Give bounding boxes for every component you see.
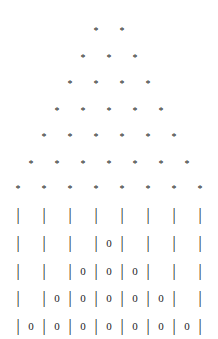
pipe-icon: | xyxy=(120,290,123,306)
pipe-icon: | xyxy=(146,207,149,223)
zero-icon: 0 xyxy=(158,318,164,334)
pipe-cell: | xyxy=(116,263,129,279)
asterisk-cell: * xyxy=(57,75,83,91)
asterisk-icon: * xyxy=(107,50,112,66)
pipe-cell: | xyxy=(142,263,155,279)
zero-cell: 0 xyxy=(129,318,142,335)
pipe-cell: | xyxy=(168,207,181,223)
zero-cell: 0 xyxy=(129,290,142,307)
zero-cell: 0 xyxy=(129,263,142,280)
asterisk-cell: * xyxy=(5,180,31,196)
zero-cell: 0 xyxy=(103,318,116,335)
asterisk-cell: * xyxy=(148,102,174,118)
star-row-2: *** xyxy=(0,49,218,65)
zero-icon: 0 xyxy=(106,318,112,334)
asterisk-icon: * xyxy=(107,156,112,172)
star-row-4: ***** xyxy=(0,102,218,118)
pipe-icon: | xyxy=(42,263,45,279)
pipe-cell: | xyxy=(142,207,155,223)
star-row-7: ******** xyxy=(0,180,218,196)
pipe-icon: | xyxy=(16,290,19,306)
pipe-icon: | xyxy=(172,318,175,334)
pipe-cell: | xyxy=(194,235,207,251)
asterisk-icon: * xyxy=(172,181,177,197)
asterisk-cell: * xyxy=(96,155,122,171)
pipe-icon: | xyxy=(94,235,97,251)
pipe-icon: | xyxy=(120,207,123,223)
pipe-icon: | xyxy=(42,290,45,306)
pipe-icon: | xyxy=(42,207,45,223)
asterisk-cell: * xyxy=(44,155,70,171)
pipe-cell: | xyxy=(90,235,103,251)
asterisk-icon: * xyxy=(172,129,177,145)
pipe-icon: | xyxy=(68,207,71,223)
pipe-icon: | xyxy=(198,207,201,223)
asterisk-icon: * xyxy=(185,156,190,172)
pipe-icon: | xyxy=(42,318,45,334)
pipe-icon: | xyxy=(198,318,201,334)
zero-cell: 0 xyxy=(155,290,168,307)
pipe-icon: | xyxy=(94,207,97,223)
pipe-cell: | xyxy=(142,318,155,334)
bar-row-1: | | | | | | | | xyxy=(0,207,218,223)
asterisk-icon: * xyxy=(159,103,164,119)
pipe-cell: | xyxy=(194,318,207,334)
zero-icon: 0 xyxy=(80,263,86,279)
zero-icon: 0 xyxy=(132,290,138,306)
asterisk-icon: * xyxy=(94,181,99,197)
pipe-cell: | xyxy=(64,235,77,251)
bar-row-4: | |0|0|0|0|0| | xyxy=(0,290,218,306)
pipe-cell: | xyxy=(64,318,77,334)
pipe-icon: | xyxy=(146,235,149,251)
pipe-icon: | xyxy=(16,235,19,251)
asterisk-cell: * xyxy=(96,102,122,118)
asterisk-icon: * xyxy=(68,76,73,92)
asterisk-icon: * xyxy=(107,103,112,119)
pipe-cell: | xyxy=(12,263,25,279)
asterisk-cell: * xyxy=(135,180,161,196)
asterisk-cell: * xyxy=(57,128,83,144)
pipe-icon: | xyxy=(94,290,97,306)
zero-icon: 0 xyxy=(106,290,112,306)
asterisk-cell: * xyxy=(109,75,135,91)
asterisk-icon: * xyxy=(81,103,86,119)
pipe-cell: | xyxy=(38,290,51,306)
pipe-icon: | xyxy=(94,318,97,334)
pipe-icon: | xyxy=(146,263,149,279)
star-row-5: ****** xyxy=(0,128,218,144)
asterisk-cell: * xyxy=(70,155,96,171)
asterisk-cell: * xyxy=(83,22,109,38)
star-row-6: ******* xyxy=(0,155,218,171)
pipe-cell: | xyxy=(168,235,181,251)
asterisk-cell: * xyxy=(148,155,174,171)
asterisk-icon: * xyxy=(120,23,125,39)
zero-icon: 0 xyxy=(132,318,138,334)
zero-icon: 0 xyxy=(54,290,60,306)
asterisk-icon: * xyxy=(94,23,99,39)
asterisk-icon: * xyxy=(81,50,86,66)
zero-icon: 0 xyxy=(80,290,86,306)
asterisk-cell: * xyxy=(161,128,187,144)
asterisk-cell: * xyxy=(83,180,109,196)
pipe-cell: | xyxy=(116,290,129,306)
asterisk-cell: * xyxy=(18,155,44,171)
asterisk-cell: * xyxy=(109,22,135,38)
asterisk-icon: * xyxy=(159,156,164,172)
zero-icon: 0 xyxy=(132,263,138,279)
pipe-cell: | xyxy=(38,263,51,279)
star-row-3: **** xyxy=(0,75,218,91)
pipe-cell: | xyxy=(168,263,181,279)
asterisk-cell: * xyxy=(57,180,83,196)
pipe-cell: | xyxy=(168,318,181,334)
zero-icon: 0 xyxy=(106,235,112,251)
zero-cell: 0 xyxy=(51,318,64,335)
asterisk-cell: * xyxy=(122,102,148,118)
asterisk-cell: * xyxy=(135,75,161,91)
pipe-cell: | xyxy=(12,207,25,223)
zero-icon: 0 xyxy=(106,263,112,279)
zero-cell: 0 xyxy=(77,290,90,307)
pipe-cell: | xyxy=(12,318,25,334)
pipe-cell: | xyxy=(38,235,51,251)
asterisk-cell: * xyxy=(174,155,200,171)
asterisk-cell: * xyxy=(31,128,57,144)
